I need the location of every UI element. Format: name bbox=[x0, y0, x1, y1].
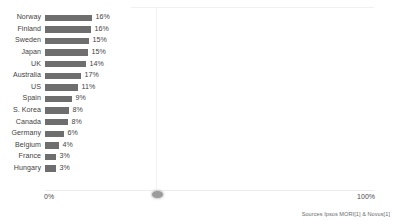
bar-category-label: Japan bbox=[0, 48, 45, 57]
bar-rows: Norway16%Finland16%Sweden15%Japan15%UK14… bbox=[0, 12, 394, 174]
bar-track: 14% bbox=[45, 58, 394, 70]
x-axis-labels: 0% 100% bbox=[0, 193, 394, 205]
bar-category-label: Belgium bbox=[0, 141, 45, 150]
table-row: Norway16% bbox=[0, 12, 394, 24]
bar bbox=[45, 165, 56, 171]
bar-value-label: 4% bbox=[63, 141, 73, 150]
bar-value-label: 3% bbox=[60, 152, 70, 161]
table-row: France3% bbox=[0, 151, 394, 163]
bar-value-label: 16% bbox=[96, 13, 110, 22]
table-row: Sweden15% bbox=[0, 35, 394, 47]
bar-value-label: 6% bbox=[68, 129, 78, 138]
source-credit: Sources Ipsos MORI[1] & Novus[1] bbox=[302, 211, 390, 217]
bar-track: 6% bbox=[45, 128, 394, 140]
bar-category-label: Spain bbox=[0, 94, 45, 103]
bar-track: 11% bbox=[45, 82, 394, 94]
table-row: US11% bbox=[0, 82, 394, 94]
bar-track: 4% bbox=[45, 140, 394, 152]
bar bbox=[45, 49, 88, 55]
bar bbox=[45, 84, 78, 90]
bar-track: 3% bbox=[45, 163, 394, 175]
bar-value-label: 15% bbox=[92, 48, 106, 57]
table-row: Japan15% bbox=[0, 47, 394, 59]
bar-category-label: Canada bbox=[0, 118, 45, 127]
table-row: Canada8% bbox=[0, 116, 394, 128]
table-row: Finland16% bbox=[0, 24, 394, 36]
bar bbox=[45, 96, 72, 102]
table-row: Belgium4% bbox=[0, 140, 394, 152]
bar bbox=[45, 107, 69, 113]
bar-value-label: 14% bbox=[90, 60, 104, 69]
bar-track: 15% bbox=[45, 47, 394, 59]
x-axis-tick-min: 0% bbox=[44, 193, 54, 200]
bar bbox=[45, 15, 92, 21]
bar-category-label: Norway bbox=[0, 13, 45, 22]
bar-value-label: 3% bbox=[60, 164, 70, 173]
bar-category-label: Hungary bbox=[0, 164, 45, 173]
x-axis-tick-max: 100% bbox=[357, 193, 375, 200]
bar-value-label: 17% bbox=[85, 71, 99, 80]
bar bbox=[45, 142, 59, 148]
bar bbox=[45, 61, 86, 67]
bar-category-label: Sweden bbox=[0, 36, 45, 45]
bar-track: 8% bbox=[45, 105, 394, 117]
bar-category-label: France bbox=[0, 152, 45, 161]
bar bbox=[45, 131, 64, 137]
bar-category-label: Germany bbox=[0, 129, 45, 138]
bar-category-label: US bbox=[0, 83, 45, 92]
table-row: Hungary3% bbox=[0, 163, 394, 175]
bar-category-label: Finland bbox=[0, 25, 45, 34]
bar bbox=[45, 38, 89, 44]
bar bbox=[45, 154, 56, 160]
bar-category-label: S. Korea bbox=[0, 106, 45, 115]
bar bbox=[45, 73, 81, 79]
table-row: S. Korea8% bbox=[0, 105, 394, 117]
bar-chart: Norway16%Finland16%Sweden15%Japan15%UK14… bbox=[0, 0, 394, 221]
bar-value-label: 8% bbox=[72, 118, 82, 127]
bar-track: 9% bbox=[45, 93, 394, 105]
bar-value-label: 11% bbox=[82, 83, 96, 92]
table-row: Germany6% bbox=[0, 128, 394, 140]
bar bbox=[45, 119, 68, 125]
bar-track: 16% bbox=[45, 12, 394, 24]
table-row: Australia17% bbox=[0, 70, 394, 82]
bar-value-label: 9% bbox=[76, 94, 86, 103]
x-axis-baseline bbox=[45, 190, 374, 191]
bar-value-label: 15% bbox=[93, 36, 107, 45]
bar bbox=[45, 26, 91, 32]
bar-category-label: UK bbox=[0, 60, 45, 69]
bar-value-label: 16% bbox=[95, 25, 109, 34]
bar-track: 3% bbox=[45, 151, 394, 163]
bar-track: 16% bbox=[45, 24, 394, 36]
bar-track: 15% bbox=[45, 35, 394, 47]
table-row: Spain9% bbox=[0, 93, 394, 105]
table-row: UK14% bbox=[0, 58, 394, 70]
bar-track: 17% bbox=[45, 70, 394, 82]
bar-category-label: Australia bbox=[0, 71, 45, 80]
bar-value-label: 8% bbox=[73, 106, 83, 115]
plot-top-rule bbox=[131, 7, 374, 8]
bar-track: 8% bbox=[45, 116, 394, 128]
